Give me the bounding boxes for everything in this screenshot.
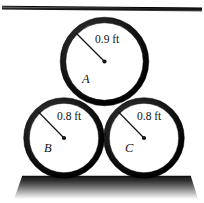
cylinder-c-dimension-label: 0.8 ft	[137, 110, 162, 122]
cylinder-a-dimension-label: 0.9 ft	[95, 33, 120, 45]
cylinder-b-id-label: B	[44, 141, 52, 155]
cylinder-a-center-dot	[102, 59, 106, 63]
cylinder-c-center-dot	[142, 136, 146, 140]
cylinder-c-id-label: C	[125, 141, 134, 155]
cylinder-c: 0.8 ft C	[104, 98, 185, 179]
cylinder-a-id-label: A	[81, 72, 90, 86]
ground-surface	[14, 177, 198, 200]
cylinder-b-dimension-label: 0.8 ft	[57, 110, 82, 122]
cylinder-b: 0.8 ft B	[24, 98, 105, 179]
mechanics-figure: 0.9 ft A 0.8 ft B 0.8 ft C	[0, 0, 204, 203]
cylinder-b-center-dot	[62, 136, 66, 140]
cylinder-a: 0.9 ft A	[60, 17, 149, 106]
figure-canvas: 0.9 ft A 0.8 ft B 0.8 ft C	[0, 0, 204, 203]
ceiling-line	[2, 6, 202, 11]
